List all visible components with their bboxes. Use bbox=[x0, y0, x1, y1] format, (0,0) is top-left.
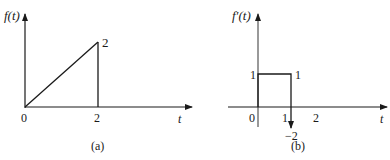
figure: f(t) 2 0 2 t (a) f′(t) 1 1 0 1 2 t −2 (b… bbox=[0, 0, 390, 160]
level-left-label: 1 bbox=[250, 68, 256, 82]
level-right-label: 1 bbox=[295, 68, 301, 82]
ylabel-a: f(t) bbox=[4, 8, 20, 23]
tick-0-a: 0 bbox=[21, 111, 27, 125]
caption-b: (b) bbox=[291, 139, 305, 153]
panel-a: f(t) 2 0 2 t (a) bbox=[4, 8, 192, 153]
tick-0-b: 0 bbox=[249, 111, 255, 125]
tick-2-a: 2 bbox=[94, 111, 100, 125]
pulse-line bbox=[258, 74, 291, 107]
xlabel-b: t bbox=[380, 112, 384, 126]
ramp-line bbox=[25, 42, 98, 107]
ylabel-b: f′(t) bbox=[232, 8, 251, 23]
xlabel-a: t bbox=[178, 112, 182, 126]
tick-1-b: 1 bbox=[282, 111, 288, 125]
panel-b: f′(t) 1 1 0 1 2 t −2 (b) bbox=[228, 8, 387, 153]
tick-2-b: 2 bbox=[313, 111, 319, 125]
peak-label: 2 bbox=[102, 35, 109, 50]
caption-a: (a) bbox=[91, 139, 104, 153]
